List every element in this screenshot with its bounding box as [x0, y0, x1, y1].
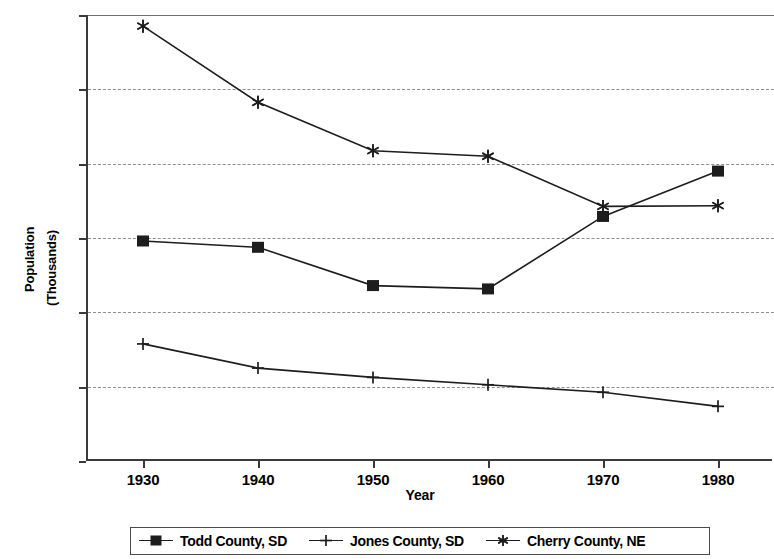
y-axis-title-line-1: Population [22, 227, 37, 292]
gridline [88, 89, 774, 90]
legend-item[interactable]: Jones County, SD [309, 533, 464, 549]
legend-marker-filled-square-icon [139, 534, 173, 548]
y-tick-mark [79, 164, 86, 166]
y-axis-title-line-2: (Thousands) [44, 230, 59, 306]
legend-label: Jones County, SD [350, 533, 464, 549]
x-tick-mark [143, 461, 145, 468]
legend-item[interactable]: Cherry County, NE [486, 533, 645, 549]
gridline [88, 238, 774, 239]
legend-label: Todd County, SD [180, 533, 287, 549]
gridline [88, 312, 774, 313]
gridline [88, 164, 774, 165]
gridline [88, 387, 774, 388]
x-axis-title: Year [380, 487, 460, 503]
y-tick-mark [79, 312, 86, 314]
legend-item[interactable]: Todd County, SD [139, 533, 287, 549]
legend: Todd County, SDJones County, SDCherry Co… [130, 527, 710, 555]
y-tick-mark [79, 89, 86, 91]
legend-marker-plus-icon [309, 534, 343, 548]
y-tick-mark [79, 461, 86, 463]
x-tick-label: 1980 [678, 472, 758, 487]
x-tick-label: 1970 [563, 472, 643, 487]
legend-key-marker [320, 535, 332, 546]
y-tick-mark [79, 15, 86, 17]
x-tick-mark [258, 461, 260, 468]
legend-key-marker [497, 535, 509, 546]
y-tick-mark [79, 387, 86, 389]
x-tick-mark [488, 461, 490, 468]
x-tick-label: 1930 [103, 472, 183, 487]
plot-area [86, 15, 772, 461]
x-tick-label: 1960 [448, 472, 528, 487]
x-tick-mark [373, 461, 375, 468]
legend-key-marker [150, 535, 162, 546]
x-tick-label: 1950 [333, 472, 413, 487]
legend-label: Cherry County, NE [527, 533, 645, 549]
gridline [88, 15, 774, 16]
legend-marker-asterisk-icon [486, 534, 520, 548]
x-tick-mark [603, 461, 605, 468]
x-tick-label: 1940 [218, 472, 298, 487]
x-tick-mark [718, 461, 720, 468]
y-tick-mark [79, 238, 86, 240]
